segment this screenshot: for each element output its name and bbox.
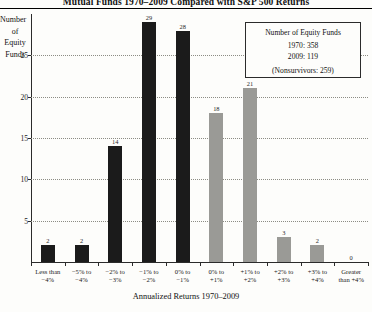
y-tick-label: 10 [2,175,28,184]
y-tick-label: 20 [2,93,28,102]
y-axis-title-line-3: Equity [0,37,30,49]
bar-3 [142,22,156,262]
x-tick-mark [200,262,201,266]
x-axis-title: Annualized Returns 1970–2009 [0,292,372,301]
y-axis-title-line-2: of [0,26,30,38]
x-tick-mark [98,262,99,266]
bar-value-label: 21 [238,80,262,87]
bar-7 [277,237,291,262]
bar-value-label: 28 [171,23,195,30]
bar-4 [176,31,190,262]
x-tick-mark [267,262,268,266]
x-tick-mark [31,262,32,266]
x-tick-mark [368,262,369,266]
y-tick-mark [28,138,31,139]
bar-value-label: 14 [103,138,127,145]
legend-row-2009: 2009: 119 [246,51,360,62]
x-tick-label: Greaterthan +4% [330,268,372,285]
gridline [31,221,368,222]
y-tick-mark [28,179,31,180]
legend-title: Number of Equity Funds [246,27,360,38]
y-tick-mark [28,221,31,222]
y-axis-title-line-1: Number [0,14,30,26]
gridline [31,97,368,98]
bar-6 [243,88,257,262]
legend-row-1970: 1970: 358 [246,40,360,51]
bar-value-label: 18 [204,105,228,112]
x-tick-mark [233,262,234,266]
x-tick-label-line: than +4% [330,276,372,284]
bar-value-label: 2 [36,237,60,244]
title-divider [0,8,372,9]
bar-0 [41,245,55,262]
legend-box: Number of Equity Funds 1970: 358 2009: 1… [245,22,361,78]
x-tick-label-line: Greater [330,268,372,276]
x-tick-mark [334,262,335,266]
x-tick-mark [132,262,133,266]
y-tick-mark [28,55,31,56]
y-tick-label: 25 [2,51,28,60]
x-tick-mark [166,262,167,266]
bar-value-label: 29 [137,14,161,21]
gridline [31,179,368,180]
bar-1 [75,245,89,262]
y-tick-label: 15 [2,134,28,143]
x-tick-mark [65,262,66,266]
bar-value-label: 0 [339,254,363,261]
x-tick-mark [301,262,302,266]
bar-value-label: 2 [70,237,94,244]
gridline [31,138,368,139]
bar-5 [209,113,223,262]
bar-8 [310,245,324,262]
bar-2 [108,146,122,262]
bar-value-label: 3 [272,229,296,236]
y-tick-mark [28,97,31,98]
legend-footnote: (Nonsurvivors: 259) [246,65,360,76]
y-tick-label: 5 [2,217,28,226]
bar-value-label: 2 [305,237,329,244]
